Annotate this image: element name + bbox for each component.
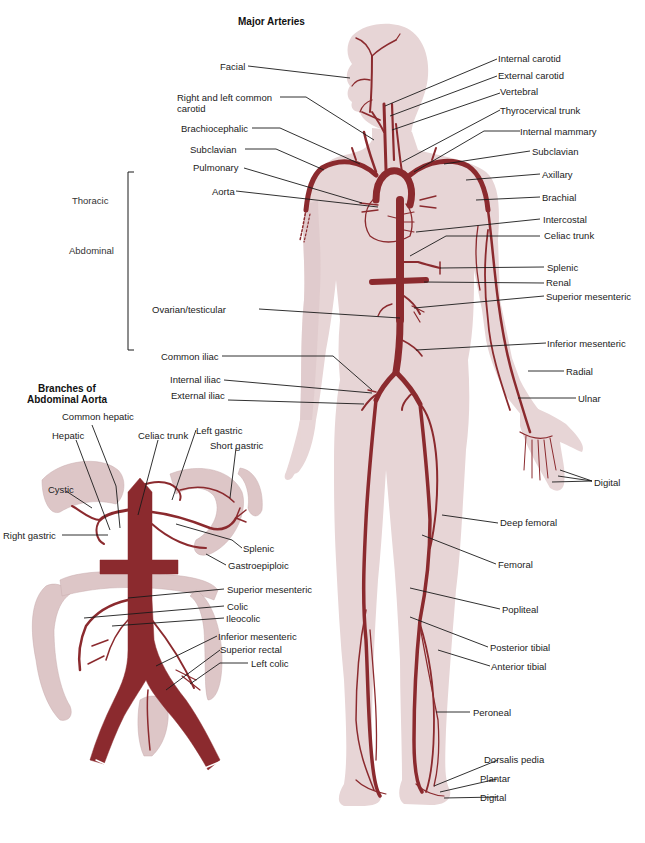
- inset-label-common-hepatic: Common hepatic: [62, 411, 134, 422]
- inset-label-short-gastric: Short gastric: [210, 440, 263, 451]
- label-renal: Renal: [546, 277, 571, 288]
- label-external-carotid: External carotid: [498, 70, 564, 81]
- label-axillary: Axillary: [542, 169, 573, 180]
- label-internal-carotid: Internal carotid: [498, 53, 561, 64]
- label-digital-foot: Digital: [480, 792, 506, 803]
- label-anterior-tibial: Anterior tibial: [491, 661, 546, 672]
- label-popliteal: Popliteal: [502, 604, 538, 615]
- section-label-abdominal: Abdominal: [69, 245, 114, 256]
- label-radial: Radial: [566, 366, 593, 377]
- inset-label-left-colic: Left colic: [251, 658, 289, 669]
- inset-label-superior-mesenteric: Superior mesenteric: [227, 584, 312, 595]
- inset-label-celiac-trunk: Celiac trunk: [138, 430, 188, 441]
- inset-label-ileocolic: Ileocolic: [226, 613, 260, 624]
- label-external-iliac: External iliac: [171, 390, 225, 401]
- label-plantar: Plantar: [480, 773, 510, 784]
- label-femoral: Femoral: [498, 559, 533, 570]
- label-deep-femoral: Deep femoral: [500, 517, 557, 528]
- label-ulnar: Ulnar: [578, 393, 601, 404]
- label-celiac-trunk: Celiac trunk: [544, 230, 594, 241]
- inset-label-splenic: Splenic: [243, 543, 274, 554]
- inset-title-line2: Abdominal Aorta: [27, 394, 107, 406]
- label-internal-iliac: Internal iliac: [170, 374, 221, 385]
- label-aorta: Aorta: [212, 186, 235, 197]
- inset-label-colic: Colic: [227, 601, 248, 612]
- label-subclavian-right: Subclavian: [532, 146, 578, 157]
- label-vertebral: Vertebral: [500, 86, 538, 97]
- label-inferior-mesenteric: Inferior mesenteric: [547, 338, 626, 349]
- label-subclavian-left: Subclavian: [190, 144, 236, 155]
- label-intercostal: Intercostal: [543, 214, 587, 225]
- label-superior-mesenteric: Superior mesenteric: [546, 291, 631, 302]
- inset-label-right-gastric: Right gastric: [3, 530, 56, 541]
- inset-label-gastroepiploic: Gastroepiploic: [228, 560, 289, 571]
- label-common-iliac: Common iliac: [161, 351, 219, 362]
- label-posterior-tibial: Posterior tibial: [490, 642, 550, 653]
- label-brachial: Brachial: [542, 192, 576, 203]
- inset-label-left-gastric: Left gastric: [196, 425, 242, 436]
- label-splenic: Splenic: [547, 262, 578, 273]
- label-facial: Facial: [220, 61, 245, 72]
- label-thyrocervical-trunk: Thyrocervical trunk: [500, 105, 580, 116]
- label-pulmonary: Pulmonary: [193, 162, 238, 173]
- section-label-thoracic: Thoracic: [72, 195, 108, 206]
- inset-label-hepatic: Hepatic: [52, 430, 84, 441]
- label-ovarian-testicular: Ovarian/testicular: [152, 304, 226, 315]
- label-brachiocephalic: Brachiocephalic: [181, 123, 248, 134]
- inset-label-superior-rectal: Superior rectal: [220, 644, 282, 655]
- label-internal-mammary: Internal mammary: [520, 126, 597, 137]
- inset-label-inferior-mesenteric: Inferior mesenteric: [218, 631, 297, 642]
- body-silhouette: [285, 24, 583, 806]
- inset-label-cystic: Cystic: [48, 484, 74, 495]
- label-dorsalis-pedia: Dorsalis pedia: [484, 754, 544, 765]
- label-common-carotid-line2: carotid: [177, 103, 206, 114]
- label-digital-hand: Digital: [594, 477, 620, 488]
- label-common-carotid: Right and left common: [177, 92, 272, 103]
- aorta-section-bracket: [128, 172, 134, 350]
- label-peroneal: Peroneal: [473, 707, 511, 718]
- figure-title: Major Arteries: [238, 16, 305, 28]
